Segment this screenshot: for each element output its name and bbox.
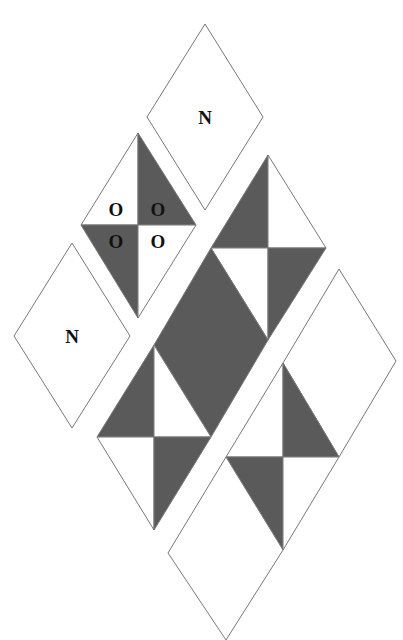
label-o-1: O: [109, 199, 124, 220]
label-o-4: O: [151, 231, 166, 252]
label-n-top: N: [198, 107, 212, 128]
quilt-block-diagram: N O O O O N: [0, 0, 403, 640]
label-n-left: N: [65, 326, 79, 347]
label-o-2: O: [151, 199, 166, 220]
label-o-3: O: [109, 231, 124, 252]
diagram-svg: N O O O O N: [0, 0, 403, 640]
